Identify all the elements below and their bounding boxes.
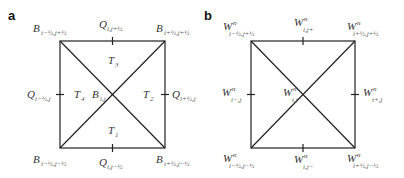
svg-text:Q: Q (27, 88, 35, 100)
svg-text:T: T (143, 88, 150, 100)
svg-text:i+½,j+½: i+½,j+½ (164, 29, 190, 37)
svg-text:Q: Q (99, 18, 107, 30)
svg-text:i,j−: i,j− (303, 163, 314, 171)
label-a-top-left: B i−½,j+½ (33, 22, 67, 37)
label-a-t4: T 4 (74, 88, 85, 103)
svg-text:i+½,j: i+½,j (180, 95, 196, 103)
svg-text:i−½,j: i−½,j (35, 95, 51, 103)
label-a-bottom-mid: Q i,j−½ (99, 156, 123, 171)
svg-text:B: B (156, 153, 163, 165)
svg-text:n: n (233, 151, 237, 159)
label-b-bottom-mid: W n i,j− (294, 152, 314, 171)
label-a-t3: T 3 (108, 54, 119, 69)
svg-text:B: B (33, 22, 40, 34)
label-a-t1: T 1 (108, 124, 119, 139)
panel-b: b W n i−½,j+½ W n i,j+ W n i+½,j+½ W n i… (204, 8, 382, 171)
svg-text:i+½,j−½: i+½,j−½ (353, 162, 379, 170)
svg-text:B: B (33, 153, 40, 165)
svg-text:1: 1 (115, 131, 119, 139)
label-b-right-mid: W n i+,j (363, 85, 382, 104)
svg-text:T: T (108, 54, 115, 66)
svg-text:T: T (108, 124, 115, 136)
svg-text:i−½,j−½: i−½,j−½ (41, 160, 67, 168)
label-a-top-right: B i+½,j+½ (156, 22, 190, 37)
svg-text:i−½,j−½: i−½,j−½ (229, 162, 255, 170)
panel-b-letter: b (204, 8, 212, 23)
svg-text:n: n (304, 152, 308, 160)
label-b-top-left: W n i−½,j+½ (223, 19, 255, 38)
svg-text:i,j: i,j (292, 96, 298, 104)
svg-text:n: n (293, 85, 297, 93)
svg-text:i−½,j+½: i−½,j+½ (41, 29, 67, 37)
svg-text:n: n (357, 151, 361, 159)
svg-text:2: 2 (150, 95, 154, 103)
label-b-left-mid: W n i−,j (222, 85, 241, 104)
label-a-bottom-left: B i−½,j−½ (33, 153, 67, 168)
svg-text:i,j: i,j (100, 95, 106, 103)
svg-text:i,j+: i,j+ (303, 26, 314, 34)
svg-text:T: T (74, 88, 81, 100)
label-a-right-mid: Q i+½,j (172, 88, 196, 103)
label-a-center: B i,j (92, 88, 106, 103)
label-b-bottom-right: W n i+½,j−½ (347, 151, 379, 170)
panel-a: a B i−½,j+½ Q i,j+½ B i+½,j+½ Q i−½,j Q (8, 8, 196, 171)
svg-text:n: n (304, 15, 308, 23)
label-b-bottom-left: W n i−½,j−½ (223, 151, 255, 170)
finite-volume-diagram: a B i−½,j+½ Q i,j+½ B i+½,j+½ Q i−½,j Q (0, 0, 404, 178)
label-a-top-mid: Q i,j+½ (99, 18, 123, 33)
svg-text:i+½,j+½: i+½,j+½ (353, 30, 379, 38)
svg-text:B: B (156, 22, 163, 34)
label-b-top-mid: W n i,j+ (294, 15, 314, 34)
panel-a-letter: a (8, 8, 16, 23)
svg-text:Q: Q (99, 156, 107, 168)
label-b-top-right: W n i+½,j+½ (347, 19, 379, 38)
label-a-t2: T 2 (143, 88, 154, 103)
svg-text:3: 3 (114, 61, 119, 69)
svg-text:n: n (233, 19, 237, 27)
svg-text:4: 4 (81, 95, 85, 103)
svg-text:i−½,j+½: i−½,j+½ (229, 30, 255, 38)
svg-text:B: B (92, 88, 99, 100)
svg-text:i+½,j−½: i+½,j−½ (164, 160, 190, 168)
svg-text:i,j−½: i,j−½ (107, 163, 123, 171)
svg-text:Q: Q (172, 88, 180, 100)
svg-text:i+,j: i+,j (372, 96, 382, 104)
svg-text:n: n (357, 19, 361, 27)
label-a-bottom-right: B i+½,j−½ (156, 153, 190, 168)
svg-text:i−,j: i−,j (231, 96, 241, 104)
svg-text:n: n (373, 85, 377, 93)
label-a-left-mid: Q i−½,j (27, 88, 51, 103)
label-b-center: W n i,j (283, 85, 298, 104)
svg-text:i,j+½: i,j+½ (107, 25, 123, 33)
svg-text:n: n (232, 85, 236, 93)
